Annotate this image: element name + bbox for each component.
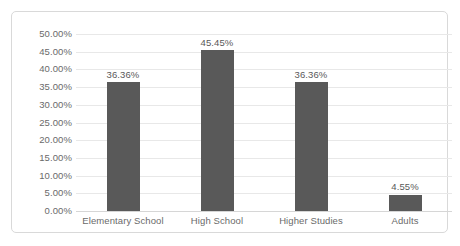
- bar[interactable]: [295, 82, 328, 211]
- bar-group[interactable]: 36.36%: [107, 70, 140, 211]
- plot-area: 36.36%45.45%36.36%4.55%: [76, 34, 452, 211]
- bar[interactable]: [201, 50, 234, 211]
- x-axis-category-label: Adults: [358, 216, 452, 226]
- y-axis-tick-label: 10.00%: [39, 171, 72, 181]
- y-axis-tick-label: 50.00%: [39, 29, 72, 39]
- bar-value-label: 36.36%: [295, 70, 328, 80]
- x-axis-category-label: Elementary School: [76, 216, 170, 226]
- y-axis-tick-label: 5.00%: [45, 189, 72, 199]
- bar-value-label: 36.36%: [107, 70, 140, 80]
- y-axis-tick-label: 15.00%: [39, 153, 72, 163]
- gridline: [76, 34, 452, 35]
- bar[interactable]: [107, 82, 140, 211]
- x-axis-category-label: High School: [170, 216, 264, 226]
- bar-value-label: 45.45%: [201, 38, 234, 48]
- y-axis-tick-label: 25.00%: [39, 118, 72, 128]
- y-axis-tick-label: 45.00%: [39, 47, 72, 57]
- bar-value-label: 4.55%: [391, 182, 418, 192]
- y-axis-tick-label: 35.00%: [39, 82, 72, 92]
- y-axis-tick-label: 20.00%: [39, 135, 72, 145]
- chart-frame: 50.00%45.00%40.00%35.00%30.00%25.00%20.0…: [11, 11, 448, 233]
- y-axis-tick-label: 30.00%: [39, 100, 72, 110]
- x-axis-category-label: Higher Studies: [264, 216, 358, 226]
- bar[interactable]: [389, 195, 422, 211]
- y-axis-tick-label: 40.00%: [39, 65, 72, 75]
- bar-group[interactable]: 4.55%: [389, 182, 422, 211]
- bar-group[interactable]: 45.45%: [201, 38, 234, 211]
- x-axis-category-labels: Elementary SchoolHigh SchoolHigher Studi…: [76, 216, 452, 232]
- bar-group[interactable]: 36.36%: [295, 70, 328, 211]
- y-axis-tick-label: 0.00%: [45, 206, 72, 216]
- axis-baseline: [76, 211, 452, 212]
- y-axis-tick-labels: 50.00%45.00%40.00%35.00%30.00%25.00%20.0…: [26, 34, 72, 211]
- gridline: [76, 52, 452, 53]
